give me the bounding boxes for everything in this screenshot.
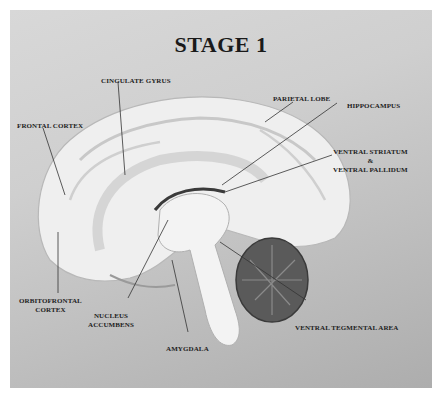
label-nucleus-line1: NUCLEUS — [88, 312, 134, 321]
label-ventral-striatum-pallidum: VENTRAL STRIATUM & VENTRAL PALLIDUM — [333, 148, 408, 175]
label-amygdala: AMYGDALA — [166, 345, 209, 354]
brainstem — [158, 194, 239, 346]
label-nucleus-line2: ACCUMBENS — [88, 321, 134, 330]
photo-frame: STAGE 1 CINGULATE GYRUS FRONTAL CORTEX P… — [10, 10, 432, 388]
page-title: STAGE 1 — [10, 32, 432, 58]
label-ventral-striatum-line2: & — [333, 157, 408, 166]
label-nucleus-accumbens: NUCLEUS ACCUMBENS — [88, 312, 134, 330]
label-cingulate-gyrus: CINGULATE GYRUS — [101, 77, 171, 86]
label-ventral-tegmental-area: VENTRAL TEGMENTAL AREA — [295, 324, 398, 333]
label-orbitofrontal-line2: CORTEX — [19, 306, 82, 315]
label-orbitofrontal-line1: ORBITOFRONTAL — [19, 297, 82, 306]
label-hippocampus: HIPPOCAMPUS — [347, 102, 400, 111]
label-parietal-lobe: PARIETAL LOBE — [273, 95, 330, 104]
label-orbitofrontal-cortex: ORBITOFRONTAL CORTEX — [19, 297, 82, 315]
label-ventral-striatum-line3: VENTRAL PALLIDUM — [333, 166, 408, 175]
label-ventral-striatum-line1: VENTRAL STRIATUM — [333, 148, 408, 157]
label-frontal-cortex: FRONTAL CORTEX — [17, 122, 83, 131]
